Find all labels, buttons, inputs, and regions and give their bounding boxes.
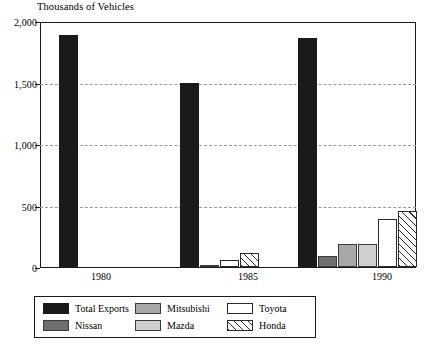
legend-item-honda[interactable]: Honda	[227, 320, 286, 331]
bar-honda-1990	[398, 211, 417, 267]
y-axis-label: 500	[3, 201, 37, 212]
legend-label: Nissan	[75, 320, 102, 331]
bars-group	[41, 23, 415, 267]
x-axis-label-1985: 1985	[238, 271, 258, 282]
legend-swatch-mazda-icon	[135, 320, 161, 331]
bar-honda-1985	[240, 253, 259, 267]
y-axis-label: 2,000	[3, 17, 37, 28]
bar-total-1980	[59, 35, 78, 267]
bar-mitsu-1990	[338, 244, 357, 267]
legend-label: Toyota	[259, 303, 287, 314]
legend-label: Mazda	[167, 320, 194, 331]
bar-chart-figure: Thousands of Vehicles 05001,0001,5002,00…	[0, 0, 435, 348]
legend-swatch-honda-icon	[227, 320, 253, 331]
bar-total-1990	[298, 38, 317, 267]
bar-nissan-1990	[318, 256, 337, 267]
legend-label: Mitsubishi	[167, 303, 210, 314]
y-axis-label: 0	[3, 263, 37, 274]
legend-item-toyota[interactable]: Toyota	[227, 303, 287, 314]
legend-label: Total Exports	[75, 303, 129, 314]
legend-item-mitsu[interactable]: Mitsubishi	[135, 303, 210, 314]
bar-toyota-1985	[220, 260, 239, 267]
chart-axis-title: Thousands of Vehicles	[37, 1, 134, 12]
legend-label: Honda	[259, 320, 286, 331]
legend-item-nissan[interactable]: Nissan	[43, 320, 102, 331]
bar-nissan-1985	[200, 265, 219, 267]
legend-item-total[interactable]: Total Exports	[43, 303, 129, 314]
legend-swatch-mitsu-icon	[135, 303, 161, 314]
legend-swatch-total-icon	[43, 303, 69, 314]
legend-item-mazda[interactable]: Mazda	[135, 320, 194, 331]
legend-swatch-toyota-icon	[227, 303, 253, 314]
x-axis-label-1980: 1980	[91, 271, 111, 282]
bar-toyota-1990	[378, 219, 397, 267]
legend: Total ExportsNissanMitsubishiMazdaToyota…	[34, 296, 316, 338]
bar-total-1985	[180, 83, 199, 267]
legend-swatch-nissan-icon	[43, 320, 69, 331]
x-axis-label-1990: 1990	[372, 271, 392, 282]
y-axis-label: 1,000	[3, 140, 37, 151]
y-axis-label: 1,500	[3, 78, 37, 89]
bar-mazda-1990	[358, 244, 377, 267]
